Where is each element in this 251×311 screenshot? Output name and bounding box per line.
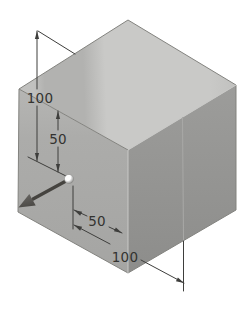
cad-viewport: 100 50 50 100 [0,0,251,311]
width-to-point-label: 50 [88,213,106,229]
width-total-label: 100 [112,249,138,265]
arrowhead-right-icon [176,277,184,283]
height-to-point-label: 50 [49,131,67,147]
height-total-top-extension-line [38,31,75,54]
height-total-label: 100 [27,90,53,106]
arrowhead-up-icon [35,31,39,39]
sketch-point [64,174,73,183]
cad-figure: 100 50 50 100 [0,0,251,311]
